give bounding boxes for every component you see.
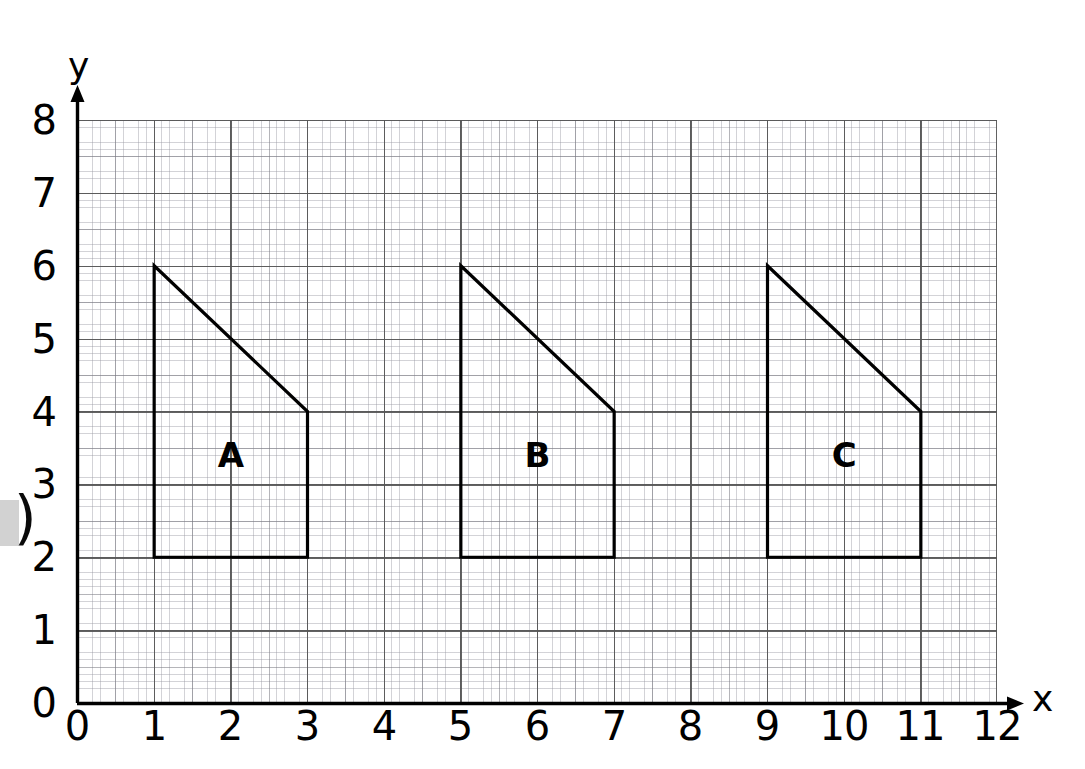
y-tick-label: 5 [2, 319, 56, 359]
y-tick-label: 0 [2, 683, 56, 723]
x-tick-label: 11 [885, 706, 955, 746]
x-tick-label: 8 [655, 706, 725, 746]
y-tick-label: 1 [2, 610, 56, 650]
y-tick-label: 7 [2, 173, 56, 213]
x-tick-label: 3 [272, 706, 342, 746]
y-axis-label: y [68, 48, 89, 84]
shape-label-c: C [814, 438, 874, 472]
x-tick-label: 5 [425, 706, 495, 746]
x-tick-label: 9 [732, 706, 802, 746]
shape-group [154, 266, 921, 558]
x-tick-label: 6 [502, 706, 572, 746]
y-tick-label: 2 [2, 537, 56, 577]
y-tick-label: 6 [2, 246, 56, 286]
x-tick-label: 4 [349, 706, 419, 746]
x-tick-label: 7 [579, 706, 649, 746]
y-tick-label: 8 [2, 100, 56, 140]
x-tick-label: 10 [809, 706, 879, 746]
shape-label-a: A [201, 438, 261, 472]
axes-and-shapes-layer [0, 0, 1085, 769]
shape-label-b: B [508, 438, 568, 472]
shape-a [154, 266, 307, 558]
graph-figure: ) 0 1 2 3 4 5 6 7 8 9 10 11 12 0 1 2 3 4… [0, 0, 1085, 769]
y-tick-label: 3 [2, 464, 56, 504]
x-tick-label: 2 [195, 706, 265, 746]
x-tick-label: 12 [962, 706, 1032, 746]
shape-b [461, 266, 614, 558]
x-tick-label: 1 [119, 706, 189, 746]
x-axis-label: x [1032, 681, 1053, 717]
y-axis-arrow-icon [71, 85, 85, 102]
y-tick-label: 4 [2, 392, 56, 432]
shape-c [768, 266, 921, 558]
